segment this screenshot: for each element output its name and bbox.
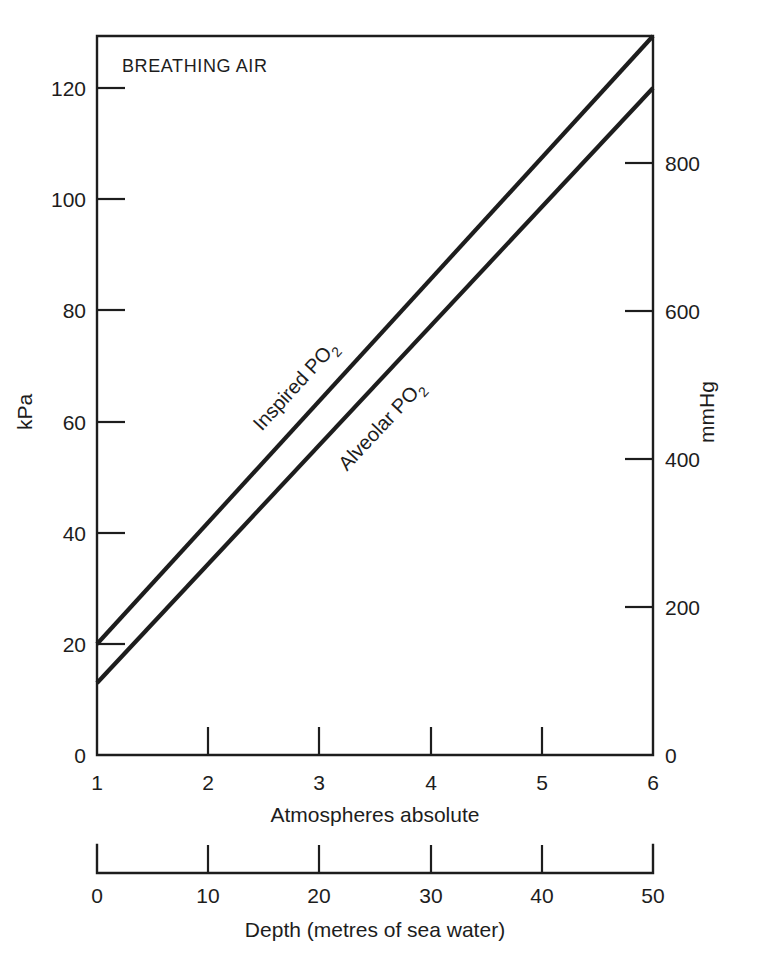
depth-axis-ticks	[208, 845, 542, 873]
y-label-100: 100	[51, 188, 86, 211]
plot-background	[97, 36, 653, 755]
y2-label-0: 0	[665, 744, 677, 767]
x-label-5: 5	[536, 771, 548, 794]
x-axis-title-atmospheres: Atmospheres absolute	[271, 803, 480, 826]
x-label-6: 6	[647, 771, 659, 794]
y-axis-right-labels: 800 600 400 200 0	[665, 152, 700, 767]
depth-label-40: 40	[530, 884, 553, 907]
x-label-4: 4	[425, 771, 437, 794]
depth-label-20: 20	[307, 884, 330, 907]
chart-figure: 120 100 80 60 40 20 0 kPa 800 600 400 20…	[0, 0, 757, 957]
x-label-2: 2	[202, 771, 214, 794]
depth-label-30: 30	[419, 884, 442, 907]
x-label-3: 3	[313, 771, 325, 794]
y2-label-800: 800	[665, 152, 700, 175]
y2-label-400: 400	[665, 448, 700, 471]
po2-depth-chart: 120 100 80 60 40 20 0 kPa 800 600 400 20…	[0, 0, 757, 957]
y-label-60: 60	[63, 411, 86, 434]
breathing-air-annotation: BREATHING AIR	[122, 56, 268, 76]
x-label-1: 1	[91, 771, 103, 794]
x-axis-title-depth: Depth (metres of sea water)	[245, 918, 505, 941]
y2-label-200: 200	[665, 596, 700, 619]
depth-axis-labels: 0 10 20 30 40 50	[91, 884, 665, 907]
depth-label-50: 50	[641, 884, 664, 907]
y-axis-title-kpa: kPa	[13, 394, 36, 431]
depth-axis-line	[97, 845, 653, 873]
depth-label-0: 0	[91, 884, 103, 907]
y-axis-title-mmhg: mmHg	[695, 381, 718, 443]
y2-label-600: 600	[665, 300, 700, 323]
y-label-120: 120	[51, 77, 86, 100]
y-label-20: 20	[63, 633, 86, 656]
y-axis-left-labels: 120 100 80 60 40 20 0	[51, 77, 86, 767]
y-label-80: 80	[63, 299, 86, 322]
y-label-0: 0	[74, 744, 86, 767]
depth-label-10: 10	[196, 884, 219, 907]
x-axis-primary-labels: 1 2 3 4 5 6	[91, 771, 659, 794]
y-label-40: 40	[63, 522, 86, 545]
